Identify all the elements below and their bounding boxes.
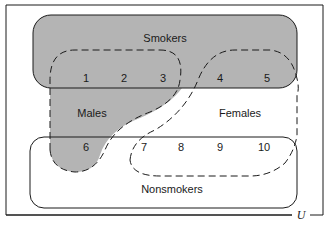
element-8: 8 [178, 141, 184, 153]
universe-label: U [297, 208, 307, 222]
element-7: 7 [141, 141, 147, 153]
element-1: 1 [83, 72, 89, 84]
males-label: Males [77, 107, 107, 119]
element-5: 5 [264, 72, 270, 84]
males-region-shade [50, 88, 182, 172]
venn-diagram: Smokers Males Females Nonsmokers 1 2 3 4… [0, 0, 331, 226]
nonsmokers-label: Nonsmokers [141, 183, 203, 195]
element-10: 10 [258, 141, 270, 153]
element-2: 2 [121, 72, 127, 84]
females-label: Females [219, 107, 262, 119]
smokers-label: Smokers [143, 32, 187, 44]
element-9: 9 [217, 141, 223, 153]
element-6: 6 [83, 141, 89, 153]
element-3: 3 [160, 72, 166, 84]
element-4: 4 [217, 72, 223, 84]
